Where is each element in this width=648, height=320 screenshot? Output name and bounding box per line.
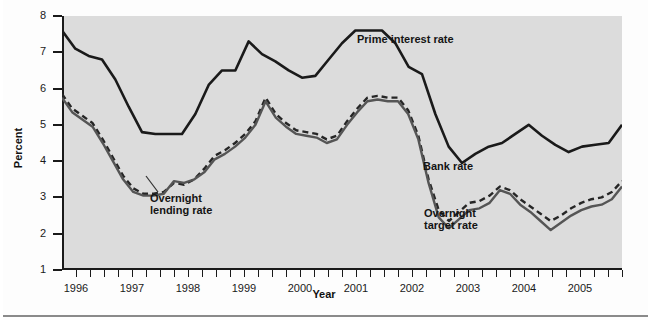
plot-area bbox=[62, 16, 622, 270]
y-tick-label: 1 bbox=[20, 263, 46, 275]
x-tick bbox=[146, 270, 147, 277]
series-lines bbox=[62, 16, 622, 270]
x-tick bbox=[552, 270, 553, 277]
y-tick bbox=[53, 88, 62, 90]
x-tick bbox=[440, 270, 441, 277]
y-tick bbox=[53, 160, 62, 162]
x-tick bbox=[398, 270, 399, 277]
x-tick bbox=[594, 270, 595, 277]
y-tick-label: 3 bbox=[20, 190, 46, 202]
x-tick bbox=[454, 270, 455, 277]
x-tick bbox=[482, 270, 483, 277]
y-tick bbox=[53, 196, 62, 198]
x-tick bbox=[580, 270, 581, 277]
x-tick bbox=[314, 270, 315, 277]
x-tick bbox=[608, 270, 609, 277]
x-tick bbox=[370, 270, 371, 277]
series-annotation: Bank rate bbox=[423, 160, 473, 172]
x-tick bbox=[188, 270, 189, 277]
x-tick bbox=[342, 270, 343, 277]
y-tick bbox=[53, 269, 62, 271]
x-tick bbox=[468, 270, 469, 277]
x-tick bbox=[412, 270, 413, 277]
y-tick-label: 8 bbox=[20, 9, 46, 21]
y-tick bbox=[53, 15, 62, 17]
series-annotation: Prime interest rate bbox=[357, 33, 454, 45]
y-tick bbox=[53, 233, 62, 235]
x-tick bbox=[356, 270, 357, 277]
x-tick bbox=[216, 270, 217, 277]
footer-rule bbox=[0, 315, 648, 317]
x-axis-title: Year bbox=[0, 288, 648, 300]
x-tick bbox=[286, 270, 287, 277]
x-tick bbox=[118, 270, 119, 277]
x-tick bbox=[538, 270, 539, 277]
x-tick bbox=[202, 270, 203, 277]
x-tick bbox=[132, 270, 133, 277]
x-tick bbox=[160, 270, 161, 277]
x-tick bbox=[328, 270, 329, 277]
x-tick bbox=[566, 270, 567, 277]
x-tick bbox=[510, 270, 511, 277]
x-tick bbox=[496, 270, 497, 277]
y-tick-label: 7 bbox=[20, 45, 46, 57]
x-tick bbox=[524, 270, 525, 277]
x-tick bbox=[384, 270, 385, 277]
x-tick bbox=[622, 270, 623, 277]
x-tick bbox=[90, 270, 91, 277]
series-line bbox=[62, 98, 622, 230]
x-tick bbox=[104, 270, 105, 277]
series-line bbox=[62, 31, 622, 163]
x-tick bbox=[230, 270, 231, 277]
y-tick-label: 6 bbox=[20, 82, 46, 94]
series-annotation: Overnight target rate bbox=[424, 207, 478, 232]
annotation-leader-line bbox=[146, 176, 158, 192]
series-line bbox=[62, 94, 622, 221]
x-tick bbox=[300, 270, 301, 277]
chart-figure: 12345678 1996199719981999200020012002200… bbox=[0, 0, 648, 320]
x-tick bbox=[244, 270, 245, 277]
y-tick-label: 2 bbox=[20, 227, 46, 239]
x-tick bbox=[76, 270, 77, 277]
x-tick bbox=[174, 270, 175, 277]
series-annotation: Overnight lending rate bbox=[150, 192, 212, 217]
x-tick bbox=[258, 270, 259, 277]
y-axis-title: Percent bbox=[12, 128, 24, 168]
x-tick bbox=[426, 270, 427, 277]
x-tick bbox=[272, 270, 273, 277]
y-tick bbox=[53, 124, 62, 126]
y-tick bbox=[53, 51, 62, 53]
left-edge-band bbox=[0, 0, 3, 320]
